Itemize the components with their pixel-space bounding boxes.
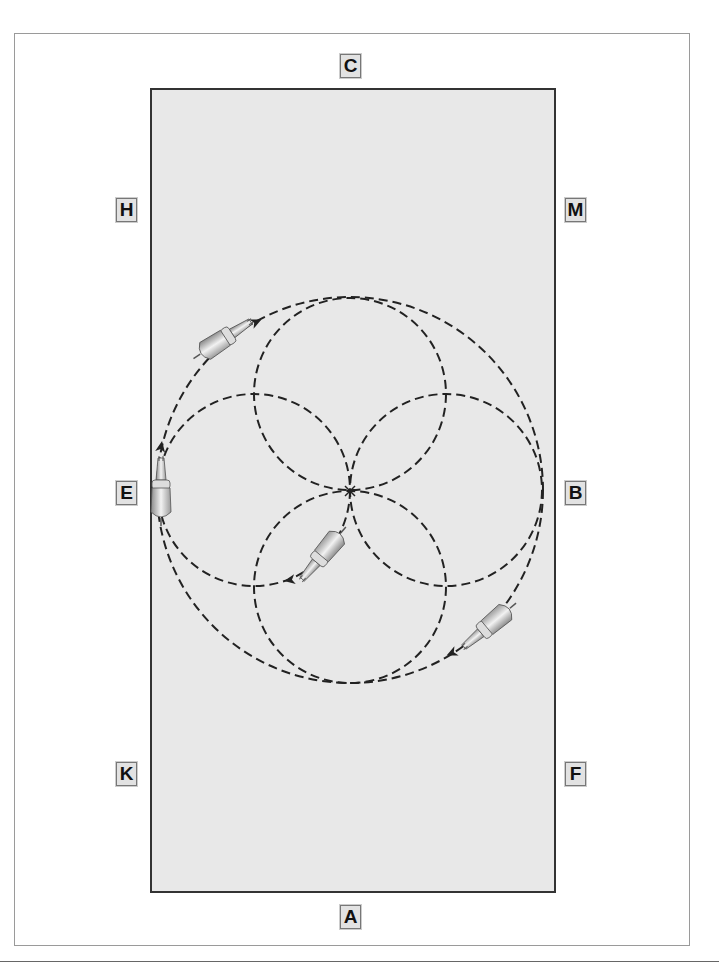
- marker-e: E: [116, 481, 137, 505]
- marker-h: H: [116, 198, 137, 222]
- arena-diagram: [0, 0, 719, 968]
- page-rule: [0, 961, 719, 962]
- marker-k: K: [116, 762, 137, 786]
- marker-c: C: [340, 54, 361, 78]
- marker-f: F: [565, 762, 586, 786]
- marker-m: M: [565, 198, 586, 222]
- marker-b: B: [565, 481, 586, 505]
- marker-a: A: [340, 905, 361, 929]
